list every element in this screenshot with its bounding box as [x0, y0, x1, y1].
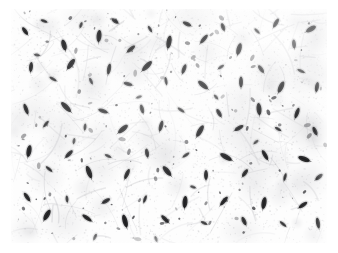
histopathology-micrograph-image [11, 9, 327, 243]
micrograph-canvas [11, 9, 327, 243]
figure-root [0, 0, 338, 253]
figure-caption [11, 244, 327, 253]
